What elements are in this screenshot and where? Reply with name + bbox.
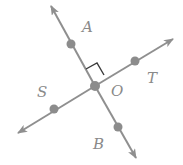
point-t bbox=[131, 57, 140, 66]
point-s bbox=[50, 105, 59, 114]
point-o bbox=[90, 81, 100, 91]
perpendicular-lines-diagram: A T S O B bbox=[0, 0, 183, 165]
label-o: O bbox=[111, 82, 123, 100]
label-s: S bbox=[37, 83, 47, 101]
label-b: B bbox=[92, 135, 104, 153]
label-t: T bbox=[147, 69, 158, 87]
label-a: A bbox=[80, 18, 93, 36]
point-b bbox=[114, 123, 123, 132]
point-a bbox=[67, 40, 76, 49]
